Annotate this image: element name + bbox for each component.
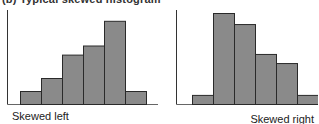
histogram-bar: [21, 92, 42, 105]
histogram-bar: [256, 54, 277, 104]
histogram-bar: [105, 21, 126, 104]
histogram-bar: [42, 79, 63, 105]
histogram-bar: [214, 14, 235, 105]
histogram-bar: [84, 46, 105, 105]
histogram-figure: Skewed left Skewed right: [0, 0, 318, 124]
histogram-bar: [277, 64, 298, 105]
histogram-bar: [298, 95, 319, 104]
chart-caption: Skewed left: [12, 110, 69, 122]
chart-caption: Skewed right: [250, 113, 314, 124]
bars: [21, 21, 147, 104]
bars: [193, 14, 319, 105]
histogram-bar: [193, 95, 214, 104]
histogram-bar: [63, 55, 84, 104]
histogram-bar: [235, 25, 256, 105]
histogram-bar: [126, 92, 147, 105]
chart-skewed-left: Skewed left: [8, 10, 159, 122]
chart-skewed-right: Skewed right: [177, 10, 319, 124]
